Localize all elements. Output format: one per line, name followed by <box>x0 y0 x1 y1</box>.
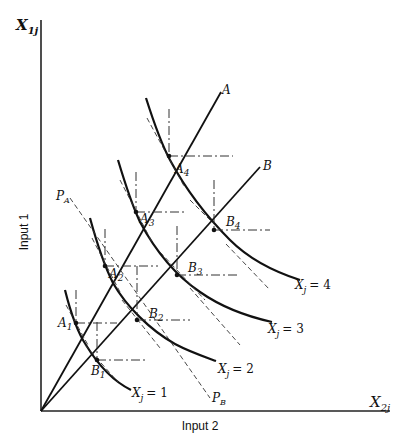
ray-a <box>41 92 221 411</box>
y-axis-symbol: X1j <box>15 16 39 36</box>
x-axis-symbol: X2j <box>369 393 390 413</box>
price-line-a-label: PA <box>55 189 70 205</box>
point-b2 <box>135 318 140 323</box>
isoquant-2-label: Xj= 2 <box>217 362 254 379</box>
label-a4: A4 <box>174 162 190 178</box>
label-a1: A1 <box>57 316 72 332</box>
isoquant-3-label: Xj= 3 <box>267 322 304 339</box>
label-b1: B1 <box>90 364 106 380</box>
label-b2: B2 <box>148 307 164 323</box>
ray-a-label: A <box>221 83 231 97</box>
price-line-b-label: PB <box>211 391 226 407</box>
isoquant-3 <box>118 160 272 322</box>
point-a2 <box>103 264 108 269</box>
point-b1 <box>95 358 100 363</box>
x-axis-label: Input 2 <box>182 419 219 433</box>
isoquant-1-label: Xj= 1 <box>131 386 168 403</box>
point-a1 <box>74 321 79 326</box>
isoquant-4 <box>146 98 300 280</box>
point-a4 <box>167 154 172 159</box>
isoquant-diagram: X1j Input 1 X2j Input 2 A B Xj= 1 Xj= 2 … <box>0 0 408 440</box>
point-b3 <box>175 273 180 278</box>
point-a3 <box>134 210 139 215</box>
ray-b-label: B <box>262 159 272 173</box>
y-axis-label: Input 1 <box>17 213 31 250</box>
tangent-b4 <box>226 244 270 290</box>
label-b3: B3 <box>187 261 203 277</box>
isoquant-4-label: Xj= 4 <box>294 278 331 295</box>
label-b4: B4 <box>225 215 241 231</box>
tangent-b3 <box>190 288 240 345</box>
tangent-a4-lower <box>190 200 220 230</box>
construction-lines <box>76 109 270 360</box>
point-b4 <box>212 228 217 233</box>
points <box>74 154 217 363</box>
